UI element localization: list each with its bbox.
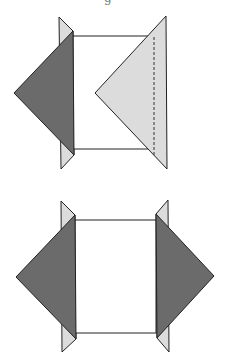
figure-bottom bbox=[16, 200, 214, 352]
left-dark-flap bbox=[16, 215, 76, 339]
right-dark-flap bbox=[156, 214, 214, 338]
left-dark-flap bbox=[14, 31, 74, 155]
square-face bbox=[75, 220, 156, 333]
folding-diagram bbox=[0, 0, 231, 363]
figure-top bbox=[14, 16, 167, 169]
